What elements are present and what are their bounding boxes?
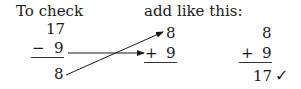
arrows bbox=[0, 0, 301, 89]
